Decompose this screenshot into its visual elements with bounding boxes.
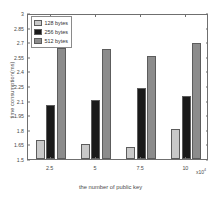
x-axis-tick-mark-top: [95, 14, 96, 17]
bar: [102, 49, 111, 159]
x-axis-tick-mark: [95, 157, 96, 160]
y-axis-tick-mark: [27, 116, 30, 117]
legend-swatch-icon: [34, 38, 42, 44]
x-axis-tick-label: 2.5: [46, 165, 54, 172]
y-axis-tick-mark-right: [206, 130, 209, 131]
y-axis-tick-label: 2.85: [14, 26, 24, 32]
y-axis-tick-mark: [27, 28, 30, 29]
legend-swatch-icon: [34, 20, 42, 26]
bar: [81, 144, 90, 159]
x-axis-label: the number of public key: [0, 184, 221, 190]
bar: [182, 96, 191, 159]
y-axis-tick-label: 2.55: [14, 55, 24, 61]
legend: 128 bytes256 bytes512 bytes: [31, 16, 72, 48]
y-axis-tick-mark-right: [206, 101, 209, 102]
legend-item: 128 bytes: [34, 19, 68, 28]
y-axis-tick-mark-right: [206, 160, 209, 161]
x-axis-exponent-power: 4: [204, 168, 206, 172]
y-axis-tick-mark: [27, 14, 30, 15]
x-axis-tick-label: 5: [93, 165, 96, 172]
y-axis-tick-mark-right: [206, 28, 209, 29]
bar: [171, 129, 180, 159]
bar: [126, 147, 135, 159]
y-axis-tick-mark-right: [206, 57, 209, 58]
y-axis-tick-label: 2.1: [17, 99, 24, 105]
y-axis-tick-mark: [27, 145, 30, 146]
y-axis-tick-mark: [27, 87, 30, 88]
legend-swatch-icon: [34, 29, 42, 35]
x-axis-tick-mark-top: [185, 14, 186, 17]
y-axis-tick-mark: [27, 101, 30, 102]
y-axis-tick-label: 2.7: [17, 40, 24, 46]
x-axis-tick-mark: [50, 157, 51, 160]
x-axis-exponent-base: x10: [196, 169, 204, 175]
bar-chart-figure: 1.51.651.81.952.12.252.42.552.72.853 tim…: [0, 0, 221, 206]
bar: [147, 56, 156, 159]
y-axis-label: time consumption(ms): [9, 40, 15, 140]
bar: [36, 140, 45, 159]
y-axis-tick-mark: [27, 57, 30, 58]
y-axis-tick-label: 3: [21, 11, 24, 17]
x-axis-tick-mark: [140, 157, 141, 160]
x-axis-tick-mark-top: [140, 14, 141, 17]
x-axis-tick-label: 10: [182, 165, 188, 172]
bar: [192, 43, 201, 159]
y-axis-tick-mark-right: [206, 14, 209, 15]
y-axis-tick-mark-right: [206, 116, 209, 117]
legend-item: 512 bytes: [34, 37, 68, 46]
y-axis-tick-mark-right: [206, 87, 209, 88]
y-axis-tick-mark: [27, 43, 30, 44]
y-axis-tick-mark: [27, 72, 30, 73]
y-axis-tick-label: 1.8: [17, 128, 24, 134]
bar: [91, 100, 100, 159]
legend-label: 256 bytes: [45, 29, 68, 35]
y-axis-tick-mark: [27, 130, 30, 131]
legend-label: 128 bytes: [45, 20, 68, 26]
y-axis-tick-label: 2.4: [17, 69, 24, 75]
x-axis-exponent: x104: [196, 168, 206, 175]
bar: [46, 105, 55, 160]
y-axis-tick-mark-right: [206, 43, 209, 44]
x-axis: 2.557.510: [0, 160, 221, 174]
x-axis-tick-mark: [185, 157, 186, 160]
bar: [57, 48, 66, 159]
legend-label: 512 bytes: [45, 38, 68, 44]
x-axis-tick-label: 7.5: [136, 165, 144, 172]
bar: [137, 88, 146, 159]
legend-item: 256 bytes: [34, 28, 68, 37]
y-axis-tick-label: 1.95: [14, 113, 24, 119]
y-axis-tick-mark: [27, 160, 30, 161]
y-axis-tick-label: 2.25: [14, 84, 24, 90]
y-axis-tick-mark-right: [206, 145, 209, 146]
y-axis-tick-label: 1.65: [14, 142, 24, 148]
y-axis-tick-mark-right: [206, 72, 209, 73]
